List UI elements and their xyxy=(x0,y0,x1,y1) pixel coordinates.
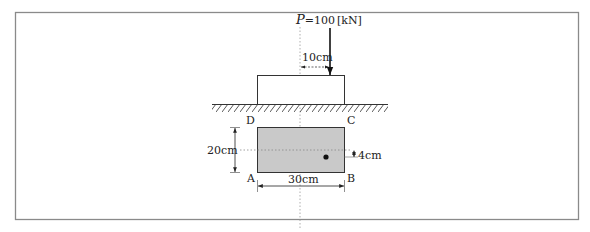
figure-frame xyxy=(16,13,579,220)
width-label: 30cm xyxy=(288,173,319,186)
diagram-canvas: P=100[kN] 10cm D C A B 20cm 30cm 4cm xyxy=(0,0,590,232)
eccentricity-x-label: 10cm xyxy=(302,51,333,64)
height-label: 20cm xyxy=(207,144,238,157)
corner-c: C xyxy=(347,114,355,127)
corner-d: D xyxy=(246,114,255,127)
corner-a: A xyxy=(246,172,256,185)
load-unit: [kN] xyxy=(337,14,362,27)
load-label: P=100[kN] xyxy=(295,12,362,27)
load-symbol: P xyxy=(295,12,305,27)
footing-block xyxy=(258,76,345,105)
load-value: =100 xyxy=(305,14,335,27)
corner-b: B xyxy=(347,172,355,185)
eccentricity-y-label: 4cm xyxy=(358,149,382,162)
ground-hatching xyxy=(212,104,388,112)
load-point xyxy=(323,154,328,159)
